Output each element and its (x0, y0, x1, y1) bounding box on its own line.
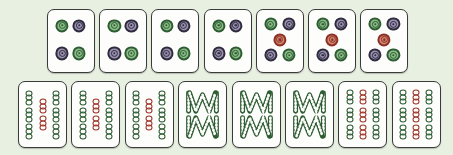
bamboo-stick-red (146, 99, 153, 114)
bamboo-stick-green (159, 124, 166, 139)
bamboo-stick-green (373, 89, 380, 104)
bamboo-stick-green (26, 124, 33, 139)
bamboo-stick-red (413, 89, 420, 104)
tile-face-dots (48, 10, 94, 72)
tile-face-bamboo-wm (233, 82, 280, 147)
bamboo-segment (400, 116, 407, 122)
bamboo-segment (346, 116, 353, 122)
dot-pip-purple (160, 47, 173, 60)
dot-pip-green (125, 47, 138, 60)
bamboo-stick-red (39, 99, 46, 114)
bamboo-stick-red (413, 125, 420, 140)
tile-face-dots (205, 10, 251, 72)
mahjong-tile-dots-5[interactable] (256, 9, 304, 73)
dot-pip-green (282, 49, 295, 62)
bamboo-segment (52, 133, 59, 139)
bamboo-segment (92, 108, 99, 114)
mahjong-tile-bamboo-8[interactable] (178, 81, 227, 148)
bamboo-segment (106, 116, 113, 122)
dot-pip-purple (73, 19, 86, 32)
bamboo-segment (133, 99, 140, 105)
bamboo-stick-green (346, 125, 353, 140)
bamboo-stick-green (52, 124, 59, 139)
bamboo-segment (413, 134, 420, 140)
bamboo-segment (79, 133, 86, 139)
dot-pip-green (316, 18, 329, 31)
mahjong-tile-dots-5[interactable] (308, 9, 356, 73)
bamboo-stick-green (426, 125, 433, 140)
bamboo-stick-green (79, 90, 86, 105)
dot-pip-green (229, 47, 242, 60)
tile-row-top (47, 9, 408, 73)
mahjong-tile-dots-4[interactable] (204, 9, 252, 73)
tile-row-bottom (18, 81, 441, 148)
bamboo-segment (373, 116, 380, 122)
dot-pip-green (387, 49, 400, 62)
bamboo-segment (146, 125, 153, 131)
bamboo-segment (159, 133, 166, 139)
bamboo-segment (52, 99, 59, 105)
dot-pip-purple (264, 49, 277, 62)
mahjong-tile-dots-4[interactable] (151, 9, 199, 73)
mahjong-tile-dots-5[interactable] (360, 9, 408, 73)
bamboo-stick-green (79, 107, 86, 122)
bamboo-segment (79, 116, 86, 122)
bamboo-stick-red (359, 89, 366, 104)
bamboo-segment (39, 125, 46, 131)
bamboo-stick-red (92, 99, 99, 114)
dot-pip-red (378, 33, 391, 46)
dot-pip-green (212, 19, 225, 32)
bamboo-stick-red (413, 107, 420, 122)
bamboo-stick-green (26, 90, 33, 105)
dot-pip-purple (108, 47, 121, 60)
dot-pip-green (177, 47, 190, 60)
bamboo-wm-glyph (286, 82, 333, 147)
tile-face-dots (100, 10, 146, 72)
bamboo-segment (79, 99, 86, 105)
dot-pip-red (325, 33, 338, 46)
bamboo-segment (26, 133, 33, 139)
dot-pip-purple (387, 18, 400, 31)
mahjong-tile-bamboo-8[interactable] (285, 81, 334, 148)
dot-pip-green (335, 49, 348, 62)
bamboo-stick-green (52, 90, 59, 105)
bamboo-stick-red (92, 115, 99, 130)
dot-pip-green (264, 18, 277, 31)
mahjong-tile-bamboo-8[interactable] (18, 81, 67, 148)
bamboo-stick-green (106, 124, 113, 139)
tile-face-bamboo (19, 82, 66, 147)
dot-pip-purple (56, 47, 69, 60)
bamboo-wm-glyph (233, 82, 280, 147)
bamboo-segment (426, 134, 433, 140)
mahjong-tile-bamboo-8[interactable] (125, 81, 174, 148)
tile-face-bamboo-wm (286, 82, 333, 147)
tile-face-bamboo-wm (179, 82, 226, 147)
tile-face-dots (152, 10, 198, 72)
mahjong-tile-bamboo-9[interactable] (338, 81, 387, 148)
mahjong-board (0, 0, 453, 155)
mahjong-tile-bamboo-9[interactable] (392, 81, 441, 148)
bamboo-stick-red (359, 107, 366, 122)
bamboo-stick-red (39, 115, 46, 130)
dot-pip-purple (125, 19, 138, 32)
tile-face-bamboo (72, 82, 119, 147)
dot-pip-purple (229, 19, 242, 32)
mahjong-tile-dots-4[interactable] (47, 9, 95, 73)
bamboo-stick-red (146, 115, 153, 130)
mahjong-tile-dots-4[interactable] (99, 9, 147, 73)
bamboo-stick-green (373, 125, 380, 140)
mahjong-tile-bamboo-8[interactable] (232, 81, 281, 148)
bamboo-segment (133, 133, 140, 139)
bamboo-segment (426, 116, 433, 122)
bamboo-stick-green (26, 107, 33, 122)
mahjong-tile-bamboo-8[interactable] (71, 81, 120, 148)
bamboo-segment (346, 134, 353, 140)
dot-pip-purple (368, 49, 381, 62)
bamboo-segment (146, 108, 153, 114)
tile-face-dots (257, 10, 303, 72)
bamboo-segment (413, 116, 420, 122)
bamboo-segment (26, 116, 33, 122)
bamboo-stick-green (159, 90, 166, 105)
dot-pip-green (108, 19, 121, 32)
bamboo-stick-green (400, 125, 407, 140)
